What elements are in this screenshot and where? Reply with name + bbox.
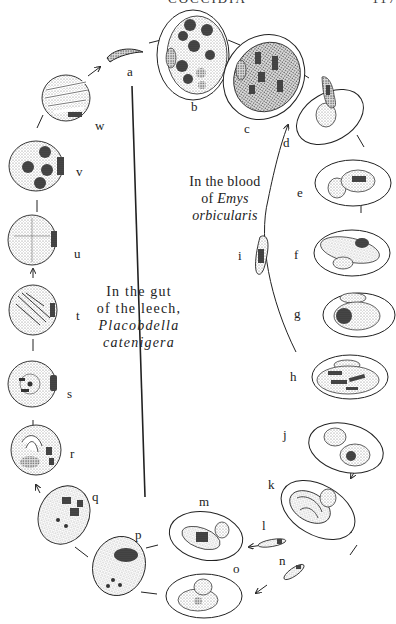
label-b: b — [191, 99, 198, 114]
label-o: o — [233, 561, 240, 576]
stage-s — [8, 361, 57, 407]
life-cycle-diagram: a b c d e f g h i j k l m n o p q r s t … — [0, 0, 396, 624]
stage-m — [165, 506, 246, 566]
caption-blood-host: In the blood of Emys orbicularis — [170, 173, 280, 224]
stage-h — [312, 355, 388, 399]
label-t: t — [76, 308, 80, 323]
stage-t — [9, 285, 57, 335]
label-a: a — [127, 64, 133, 79]
label-g: g — [294, 306, 301, 321]
stage-r — [11, 425, 61, 475]
label-n: n — [279, 553, 286, 568]
stage-b-schizont — [157, 10, 229, 100]
stage-l-microgamete — [258, 537, 287, 549]
stage-o — [166, 574, 242, 618]
label-q: q — [92, 489, 99, 504]
stage-i-merozoite — [256, 236, 268, 274]
stage-k — [271, 468, 365, 551]
label-v: v — [76, 164, 83, 179]
label-k: k — [268, 477, 275, 492]
label-e: e — [297, 185, 303, 200]
stage-w-oocyst — [42, 75, 90, 121]
label-l: l — [262, 518, 266, 533]
label-d: d — [283, 135, 290, 150]
label-i: i — [238, 248, 242, 263]
label-c: c — [244, 121, 250, 136]
stage-v — [9, 141, 64, 191]
stage-g — [323, 293, 395, 337]
stage-n — [282, 562, 306, 582]
label-w: w — [95, 118, 105, 133]
label-m: m — [199, 494, 209, 509]
stage-j — [303, 415, 389, 481]
stage-e — [315, 160, 391, 206]
label-u: u — [74, 246, 81, 261]
label-h: h — [290, 369, 297, 384]
stage-q — [29, 477, 100, 553]
stage-a-sporozoite — [107, 49, 143, 62]
stage-f — [314, 230, 390, 276]
label-j: j — [282, 427, 287, 442]
stage-u — [8, 215, 57, 265]
label-f: f — [294, 247, 299, 262]
figure-page: COCCIDIA 117 — [0, 0, 396, 624]
label-p: p — [135, 527, 142, 542]
caption-leech-host: In the gut of the leech, Placobdella cat… — [84, 283, 194, 351]
label-s: s — [67, 386, 72, 401]
label-r: r — [70, 446, 75, 461]
